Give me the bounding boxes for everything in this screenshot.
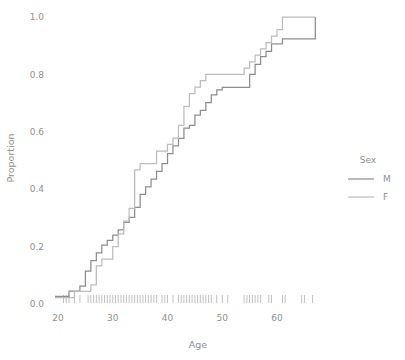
legend-label-m: M — [383, 174, 391, 184]
legend-title: Sex — [360, 155, 377, 165]
chart-canvas: 2030405060 0.00.20.40.60.81.0 Age Propor… — [0, 0, 405, 360]
y-tick-label: 0.8 — [30, 70, 45, 80]
legend: Sex MF — [348, 155, 391, 202]
y-tick-label: 0.2 — [30, 242, 44, 252]
x-axis-ticks: 2030405060 — [52, 313, 283, 323]
plot-background — [50, 8, 290, 308]
ecdf-chart: 2030405060 0.00.20.40.60.81.0 Age Propor… — [0, 0, 405, 360]
y-tick-label: 0.6 — [30, 127, 45, 137]
y-tick-label: 0.4 — [30, 184, 45, 194]
x-axis-title: Age — [189, 339, 208, 350]
y-tick-label: 1.0 — [30, 12, 45, 22]
y-tick-label: 0.0 — [30, 299, 45, 309]
x-tick-label: 40 — [162, 313, 174, 323]
x-tick-label: 30 — [107, 313, 119, 323]
y-axis-ticks: 0.00.20.40.60.81.0 — [30, 12, 45, 309]
legend-label-f: F — [383, 192, 388, 202]
x-tick-label: 50 — [217, 313, 229, 323]
x-tick-label: 20 — [52, 313, 64, 323]
y-axis-title: Proportion — [5, 133, 16, 182]
x-tick-label: 60 — [271, 313, 283, 323]
